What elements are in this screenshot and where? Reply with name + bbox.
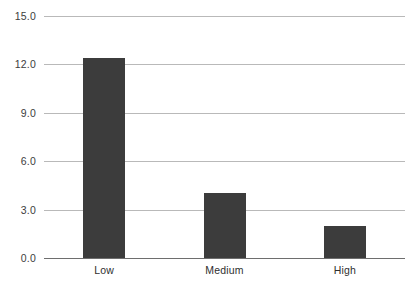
bar-chart: 0.03.06.09.012.015.0 LowMediumHigh <box>0 0 412 286</box>
x-axis-tick-label: High <box>334 264 356 276</box>
x-axis-tick-label: Medium <box>205 264 244 276</box>
bar[interactable] <box>324 226 366 258</box>
y-axis-tick-label: 0.0 <box>0 252 36 264</box>
x-axis-line <box>44 258 405 259</box>
y-axis-tick-label: 6.0 <box>0 155 36 167</box>
bar[interactable] <box>83 58 125 258</box>
y-axis-tick-label: 3.0 <box>0 204 36 216</box>
y-axis-tick-label: 15.0 <box>0 10 36 22</box>
y-axis-tick-label: 9.0 <box>0 107 36 119</box>
y-axis-tick-label: 12.0 <box>0 58 36 70</box>
bar[interactable] <box>204 193 246 258</box>
bars-layer <box>44 16 405 258</box>
x-axis-tick-label: Low <box>94 264 114 276</box>
